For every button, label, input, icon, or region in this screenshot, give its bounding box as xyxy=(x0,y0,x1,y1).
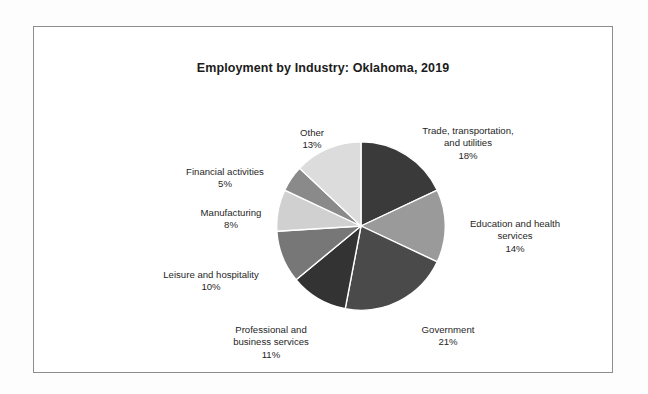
pie-label-professional-name-line1: Professional and xyxy=(235,324,306,335)
pie-label-government-name: Government xyxy=(422,324,475,335)
pie-label-other-percent: 13% xyxy=(266,139,358,151)
pie-label-professional-business-services: Professional and business services 11% xyxy=(205,324,337,361)
pie-label-manufacturing-name: Manufacturing xyxy=(201,207,262,218)
pie-label-leisure-percent: 10% xyxy=(144,281,278,293)
figure-frame: Employment by Industry: Oklahoma, 2019 O… xyxy=(33,26,613,373)
pie-chart-svg xyxy=(275,140,447,312)
pie-label-other: Other 13% xyxy=(266,127,358,152)
pie-label-leisure-hospitality: Leisure and hospitality 10% xyxy=(144,269,278,294)
pie-label-other-name: Other xyxy=(300,127,324,138)
pie-label-financial-activities: Financial activities 5% xyxy=(162,166,288,191)
pie-label-leisure-name: Leisure and hospitality xyxy=(163,269,258,280)
pie-label-trade-name-line2: and utilities xyxy=(444,137,492,148)
chart-title: Employment by Industry: Oklahoma, 2019 xyxy=(34,61,612,75)
pie-slice-group xyxy=(277,142,446,311)
pie-chart xyxy=(275,140,447,312)
pie-label-manufacturing: Manufacturing 8% xyxy=(175,207,287,232)
pie-label-trade-name-line1: Trade, transportation, xyxy=(422,125,513,136)
pie-label-manufacturing-percent: 8% xyxy=(175,219,287,231)
pie-label-trade-percent: 18% xyxy=(398,150,538,162)
pie-label-education-percent: 14% xyxy=(451,243,579,255)
pie-label-education-name-line2: services xyxy=(497,230,532,241)
pie-label-government: Government 21% xyxy=(391,324,505,349)
pie-label-trade-transportation-utilities: Trade, transportation, and utilities 18% xyxy=(398,125,538,162)
pie-label-education-name-line1: Education and health xyxy=(470,218,560,229)
pie-label-professional-name-line2: business services xyxy=(233,336,309,347)
scanned-page: Employment by Industry: Oklahoma, 2019 O… xyxy=(0,0,648,394)
pie-label-education-health-services: Education and health services 14% xyxy=(451,218,579,255)
pie-label-professional-percent: 11% xyxy=(205,349,337,361)
pie-label-government-percent: 21% xyxy=(391,336,505,348)
pie-label-financial-percent: 5% xyxy=(162,178,288,190)
pie-label-financial-name: Financial activities xyxy=(186,166,264,177)
